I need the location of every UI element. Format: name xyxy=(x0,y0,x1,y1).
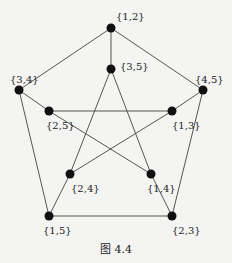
vertex-label: {1,5} xyxy=(43,226,72,236)
vertex xyxy=(199,86,208,95)
vertex xyxy=(45,107,54,116)
edge xyxy=(70,111,172,174)
edge xyxy=(111,28,203,90)
vertex-label: {2,5} xyxy=(46,121,75,131)
edge xyxy=(19,90,49,216)
vertex-label: {2,3} xyxy=(172,226,201,236)
edge xyxy=(49,174,70,216)
vertex-label: {4,5} xyxy=(195,75,224,85)
vertex xyxy=(45,212,54,221)
petersen-graph xyxy=(0,0,232,263)
vertex-label: {3,5} xyxy=(120,62,149,72)
edge xyxy=(70,69,111,174)
vertex-label: {1,4} xyxy=(147,184,176,194)
edge xyxy=(111,69,151,174)
vertex xyxy=(168,107,177,116)
vertex xyxy=(168,212,177,221)
vertex-label: {1,2} xyxy=(116,12,145,22)
vertex xyxy=(147,170,156,179)
vertex-label: {1,3} xyxy=(172,121,201,131)
vertex-label: {3,4} xyxy=(10,75,39,85)
vertex xyxy=(107,65,116,74)
vertex xyxy=(107,24,116,33)
edge xyxy=(172,90,203,216)
vertex-label: {2,4} xyxy=(71,184,100,194)
figure-caption: 图 4.4 xyxy=(0,240,232,256)
vertex xyxy=(66,170,75,179)
edge xyxy=(151,174,172,216)
vertex xyxy=(15,86,24,95)
